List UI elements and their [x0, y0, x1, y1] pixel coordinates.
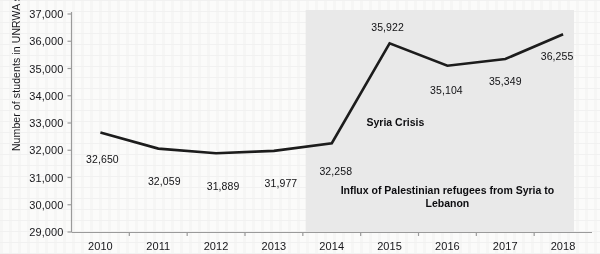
x-tick-label: 2013 — [244, 240, 304, 252]
x-tick-label: 2010 — [70, 240, 130, 252]
y-tick-label: 33,000 — [0, 117, 64, 129]
x-tick-label: 2014 — [302, 240, 362, 252]
y-tick-label: 30,000 — [0, 199, 64, 211]
data-point-label: 32,059 — [148, 175, 181, 187]
line-chart: Number of students in UNRWA schools 29,0… — [0, 0, 600, 254]
annotation-syria-crisis: Syria Crisis — [366, 116, 424, 129]
x-tick-label: 2016 — [417, 240, 477, 252]
data-point-label: 31,977 — [265, 177, 298, 189]
data-point-label: 35,349 — [489, 75, 522, 87]
y-tick-label: 35,000 — [0, 63, 64, 75]
x-tick-label: 2011 — [128, 240, 188, 252]
x-tick-label: 2018 — [533, 240, 593, 252]
y-tick-label: 31,000 — [0, 172, 64, 184]
data-point-label: 35,922 — [371, 21, 404, 33]
y-tick-label: 29,000 — [0, 226, 64, 238]
x-tick-label: 2017 — [475, 240, 535, 252]
y-tick-label: 37,000 — [0, 8, 64, 20]
y-tick-label: 34,000 — [0, 90, 64, 102]
data-point-label: 31,889 — [207, 180, 240, 192]
data-point-label: 32,650 — [86, 153, 119, 165]
x-tick-label: 2012 — [186, 240, 246, 252]
annotation-influx-refugees: Influx of Palestinian refugees from Syri… — [332, 183, 562, 210]
data-point-label: 35,104 — [430, 84, 463, 96]
plot-area — [0, 0, 600, 254]
y-tick-label: 32,000 — [0, 144, 64, 156]
data-point-label: 36,255 — [541, 50, 574, 62]
x-tick-label: 2015 — [360, 240, 420, 252]
y-tick-label: 36,000 — [0, 35, 64, 47]
data-point-label: 32,258 — [319, 165, 352, 177]
